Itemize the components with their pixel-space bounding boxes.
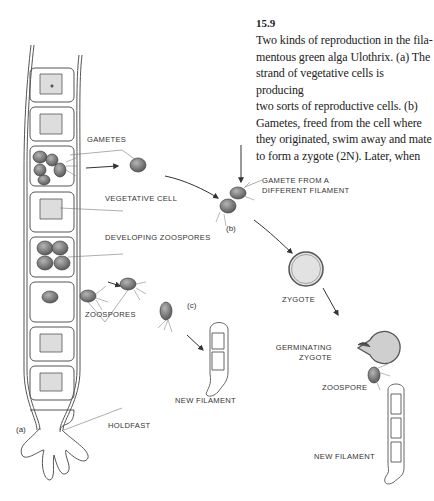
caption-line: two sorts of reproductive cells. (b) [256, 99, 418, 113]
label-germinating-2: ZYGOTE [272, 353, 332, 362]
caption-line: mentous green alga Ulothrix. (a) The [256, 50, 430, 64]
label-gamete-from-different-2: DIFFERENT FILAMENT [262, 186, 350, 195]
part-label-b: (b) [226, 224, 236, 233]
label-gametes: GAMETES [87, 135, 126, 144]
caption-line: strand of vegetative cells is producing [256, 66, 384, 97]
figure-number: 15.9 [256, 17, 434, 29]
label-zygote: ZYGOTE [282, 295, 315, 304]
caption-line: to form a zygote (2N). Later, when [256, 149, 420, 163]
caption-line: Two kinds of reproduction in the fila- [256, 33, 433, 47]
label-gamete-from-different-1: GAMETE FROM A [262, 176, 329, 185]
caption-line: they originated, swim away and mate [256, 132, 432, 146]
label-zoospores: ZOOSPORES [85, 310, 136, 319]
figure-caption-text: Two kinds of reproduction in the fila- m… [256, 32, 434, 164]
figure-caption: 15.9 Two kinds of reproduction in the fi… [256, 17, 434, 164]
caption-line: Gametes, freed from the cell where [256, 116, 422, 130]
label-zoospore: ZOOSPORE [322, 383, 367, 392]
label-new-filament-b: NEW FILAMENT [314, 452, 375, 461]
label-new-filament-c: NEW FILAMENT [175, 396, 236, 405]
label-germinating-1: GERMINATING [272, 343, 332, 352]
part-label-c: (c) [187, 301, 196, 310]
label-vegetative-cell: VEGETATIVE CELL [105, 194, 177, 203]
label-holdfast: HOLDFAST [108, 421, 151, 430]
part-label-a: (a) [16, 425, 26, 434]
label-developing-zoospores: DEVELOPING ZOOSPORES [105, 233, 211, 242]
